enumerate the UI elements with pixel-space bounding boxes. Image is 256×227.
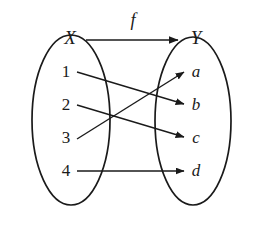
domain-element-3: 3 [62, 128, 71, 147]
domain-set-ellipse [32, 35, 110, 205]
mapping-arrow-3-to-a [77, 72, 184, 139]
domain-set-label: X [63, 27, 77, 48]
codomain-element-c: c [192, 128, 200, 147]
codomain-set-label: Y [191, 27, 204, 48]
mapping-arrow-2-to-c [77, 105, 184, 137]
domain-element-1: 1 [62, 62, 71, 81]
codomain-element-d: d [192, 161, 201, 180]
function-mapping-diagram: X Y f 1 2 3 4 a b c d [0, 0, 256, 227]
codomain-element-b: b [192, 95, 201, 114]
domain-element-2: 2 [62, 95, 71, 114]
domain-element-4: 4 [62, 161, 71, 180]
mapping-arrow-1-to-b [77, 72, 184, 104]
codomain-element-a: a [192, 62, 201, 81]
function-label: f [130, 10, 138, 30]
